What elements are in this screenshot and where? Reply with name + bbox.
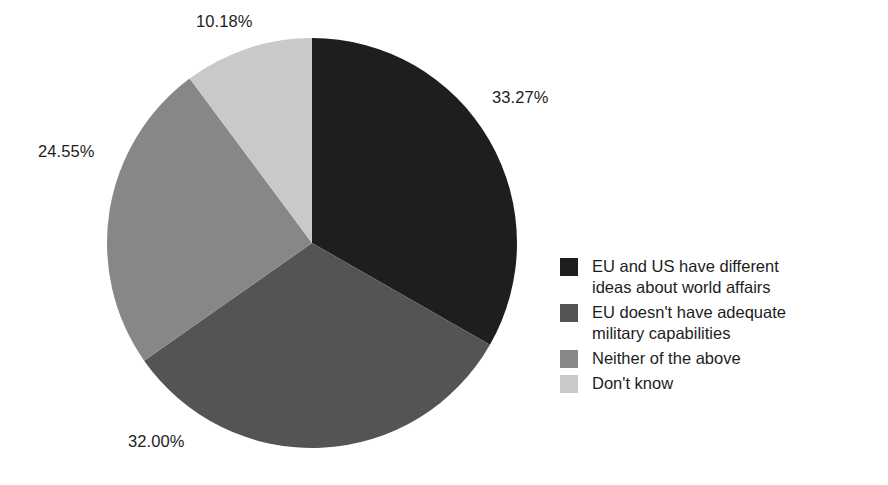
- legend-label-3: Don't know: [592, 373, 673, 394]
- legend-item-1[interactable]: EU doesn't have adequate military capabi…: [560, 302, 880, 344]
- pie-chart-figure: 33.27% 32.00% 24.55% 10.18% EU and US ha…: [0, 0, 888, 485]
- legend-swatch-2: [560, 350, 578, 368]
- legend-label-1: EU doesn't have adequate military capabi…: [592, 302, 786, 344]
- slice-percent-label-2: 24.55%: [38, 142, 95, 161]
- slice-percent-label-3: 10.18%: [196, 12, 253, 31]
- pie-slice-group: [107, 38, 517, 448]
- legend-item-2[interactable]: Neither of the above: [560, 348, 880, 369]
- slice-percent-label-0: 33.27%: [492, 88, 549, 107]
- legend-item-0[interactable]: EU and US have different ideas about wor…: [560, 256, 880, 298]
- legend-item-3[interactable]: Don't know: [560, 373, 880, 394]
- pie-svg: [0, 0, 540, 485]
- slice-percent-label-1: 32.00%: [128, 432, 185, 451]
- legend-swatch-0: [560, 258, 578, 276]
- legend-swatch-1: [560, 304, 578, 322]
- chart-legend: EU and US have different ideas about wor…: [560, 256, 880, 398]
- legend-label-2: Neither of the above: [592, 348, 741, 369]
- pie-plot-area: 33.27% 32.00% 24.55% 10.18%: [0, 0, 540, 485]
- legend-swatch-3: [560, 375, 578, 393]
- legend-label-0: EU and US have different ideas about wor…: [592, 256, 779, 298]
